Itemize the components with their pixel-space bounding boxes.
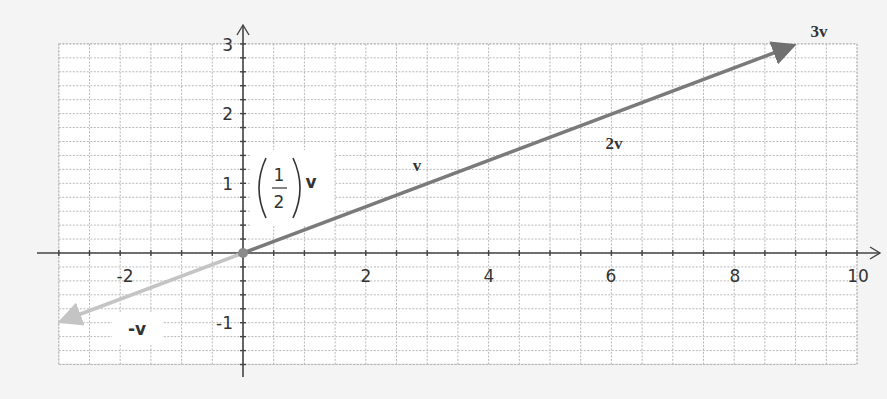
- three-v-label: 3v: [811, 22, 829, 41]
- origin-point: [238, 248, 248, 258]
- fraction-denominator: 2: [274, 192, 285, 212]
- vector-diagram: -2 2 4 6 8 10 3 2 1 -1 -v 1 2 v v 2v 3v: [0, 0, 887, 399]
- x-tick-label: 8: [730, 266, 741, 286]
- x-tick-label: 10: [847, 266, 869, 286]
- x-tick-label: 6: [606, 266, 617, 286]
- y-tick-label: -1: [216, 313, 233, 333]
- y-tick-label: 1: [222, 174, 233, 194]
- x-tick-label: 4: [484, 266, 495, 286]
- half-v-suffix: v: [305, 172, 316, 192]
- y-tick-label: 3: [222, 35, 233, 55]
- x-tick-label: 2: [361, 266, 372, 286]
- half-v-label-box: [250, 150, 334, 226]
- y-tick-label: 2: [222, 104, 233, 124]
- fraction-numerator: 1: [274, 165, 285, 185]
- v-label: v: [413, 156, 422, 175]
- neg-v-label: -v: [128, 319, 146, 339]
- two-v-label: 2v: [606, 134, 624, 153]
- x-tick-label: -2: [117, 266, 134, 286]
